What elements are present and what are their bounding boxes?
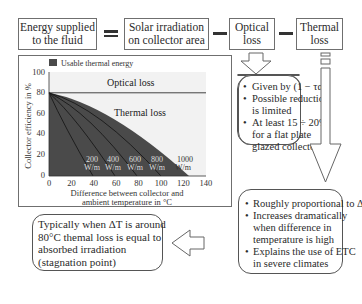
- x-tick: 60: [112, 178, 121, 188]
- solar-irradiation-line2: on collector area: [128, 34, 205, 47]
- legend-swatch: [49, 59, 57, 66]
- energy-supplied-line2: to the fluid: [20, 34, 95, 47]
- optical-notes-text: • Given by (1 − τα) • Possible reduction…: [243, 81, 305, 153]
- thermal-notes-text: • Roughly proportional to ΔT • Increases…: [245, 198, 345, 270]
- y-tick: 20: [37, 149, 46, 159]
- x-axis-label-line2: ambient temperature in °C: [82, 197, 172, 207]
- thermal-note-item: • Explains the use of ETC in severe clim…: [253, 246, 345, 270]
- x-tick: 100: [155, 178, 168, 188]
- thermal-loss-box: Thermal loss: [296, 18, 343, 50]
- solar-irradiation-line1: Solar irradiation: [128, 21, 205, 34]
- optical-loss-annotation: Optical loss: [107, 77, 155, 88]
- thermal-loss-annotation: Thermal loss: [114, 107, 166, 118]
- minus-sign-icon: [279, 32, 293, 35]
- y-tick: 40: [37, 128, 46, 138]
- curve-unit-800: W/m: [149, 163, 166, 172]
- thermal-note-item: • Increases dramatically when difference…: [253, 210, 345, 246]
- stagnation-line: (stagnation point): [38, 256, 166, 269]
- legend-label: Usable thermal energy: [61, 59, 133, 68]
- stagnation-note-text: Typically when ΔT is around 80°C themal …: [38, 218, 166, 268]
- y-tick: 100: [32, 67, 45, 77]
- energy-supplied-box: Energy supplied to the fluid: [18, 18, 97, 50]
- y-tick: 0: [41, 170, 45, 180]
- efficiency-chart: Usable thermal energy 200 W/m 400 W/m 60…: [18, 55, 232, 207]
- y-tick: 80: [37, 87, 46, 97]
- thermal-down-arrow-icon: [306, 52, 346, 188]
- left-arrow-icon: [170, 228, 206, 258]
- y-axis-label: Collector efficiency in %: [23, 83, 33, 169]
- x-tick: 120: [177, 178, 190, 188]
- x-tick: 140: [199, 178, 212, 188]
- stagnation-line: 80°C themal loss is equal to: [38, 231, 166, 244]
- optical-loss-line2: loss: [235, 34, 269, 47]
- optical-loss-box: Optical loss: [229, 18, 275, 50]
- curve-unit-200: W/m: [84, 163, 101, 172]
- x-tick: 20: [67, 178, 76, 188]
- curve-unit-1000: W/m: [175, 163, 192, 172]
- down-arrow-icon: [238, 52, 274, 76]
- x-tick: 0: [47, 178, 51, 188]
- y-tick: 60: [37, 108, 46, 118]
- thermal-note-item: • Roughly proportional to ΔT: [253, 198, 345, 210]
- equals-sign-icon: [104, 30, 118, 37]
- minus-sign-icon: [213, 32, 227, 35]
- optical-note-item: • At least 15 ÷ 20% for a flat plate gla…: [252, 117, 305, 153]
- curve-unit-600: W/m: [127, 163, 144, 172]
- optical-note-item: • Possible reduction is limited: [252, 93, 305, 117]
- efficiency-chart-svg: Usable thermal energy 200 W/m 400 W/m 60…: [19, 56, 233, 208]
- thermal-loss-line2: loss: [300, 34, 339, 47]
- optical-note-item: • Given by (1 − τα): [252, 81, 305, 93]
- energy-supplied-line1: Energy supplied: [20, 21, 95, 34]
- x-tick: 40: [90, 178, 99, 188]
- solar-irradiation-box: Solar irradiation on collector area: [124, 18, 209, 50]
- optical-loss-line1: Optical: [235, 21, 269, 34]
- x-tick: 80: [134, 178, 143, 188]
- curve-unit-400: W/m: [105, 163, 122, 172]
- thermal-loss-line1: Thermal: [300, 21, 339, 34]
- stagnation-line: Typically when ΔT is around: [38, 218, 166, 231]
- stagnation-line: absorbed irradiation: [38, 243, 166, 256]
